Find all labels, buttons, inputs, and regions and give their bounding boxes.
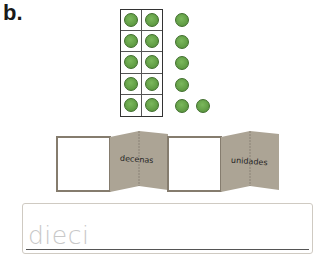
counter-dot [145,55,159,69]
counter-dot [124,77,138,91]
loose-counter-dot [175,13,189,27]
ten-frame-cell [121,31,142,52]
loose-counter-dot [175,35,189,49]
ones-answer-box[interactable] [167,136,222,192]
ten-frame-cell [121,10,142,31]
ten-frame-cell [142,95,163,116]
number-word-answer-field[interactable]: dieci [22,203,313,254]
loose-counter-dot [175,78,189,92]
exercise-label: b. [3,0,23,26]
ten-frame-cell [121,52,142,73]
ten-frame-cell [142,31,163,52]
loose-counter-dot [175,99,189,113]
ten-frame-cell [121,95,142,116]
counter-dot [145,98,159,112]
answer-prefilled-text: dieci [28,221,89,250]
ten-frame [120,9,163,117]
ten-frame-cell [142,52,163,73]
counter-dot [145,13,159,27]
counter-dot [124,55,138,69]
ten-frame-cell [142,10,163,31]
loose-counter-dot [196,99,210,113]
counter-dot [124,34,138,48]
counter-dot [124,13,138,27]
tens-answer-box[interactable] [56,136,111,192]
counter-dot [145,34,159,48]
counter-dot [124,98,138,112]
ten-frame-cell [142,74,163,95]
answer-baseline [26,249,309,251]
loose-counter-dot [175,56,189,70]
ten-frame-cell [121,74,142,95]
counter-dot [145,77,159,91]
